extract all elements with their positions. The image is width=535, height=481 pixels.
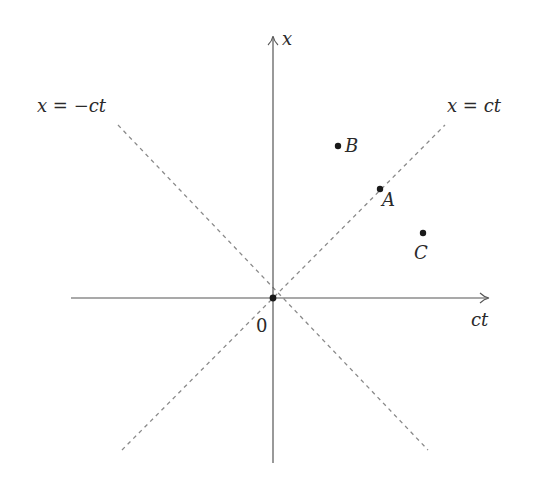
light-line-positive (122, 125, 445, 450)
event-b-label: B (344, 135, 358, 156)
light-line-positive-label: x = ct (447, 95, 502, 116)
x-axis-label: x (282, 28, 292, 49)
origin-label: 0 (256, 315, 267, 336)
event-a-label: A (380, 189, 395, 210)
light-line-negative-label: x = −ct (37, 95, 107, 116)
origin-point (270, 295, 277, 302)
event-b-point (335, 143, 341, 149)
event-c-point (420, 230, 426, 236)
event-c-label: C (414, 242, 428, 263)
spacetime-diagram: x ct 0 x = −ct x = ct B A C (0, 0, 535, 481)
ct-axis-label: ct (471, 309, 489, 330)
